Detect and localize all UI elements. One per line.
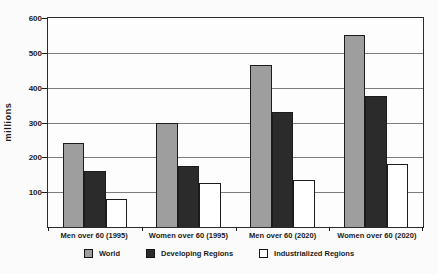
y-tick-label-300: 300	[12, 119, 42, 128]
bar-world-2	[250, 65, 272, 227]
y-tick-label-600: 600	[12, 14, 42, 23]
bar-industrialized-regions-0	[106, 199, 128, 227]
y-tick-label-100: 100	[12, 188, 42, 197]
y-tick-600	[42, 18, 47, 19]
gridline-400	[48, 88, 423, 89]
x-category-label: Men over 60 (1995)	[47, 231, 141, 240]
legend-item-industrialized-regions: Industrialized Regions	[259, 249, 354, 258]
bar-industrialized-regions-3	[387, 164, 409, 227]
bar-developing-regions-3	[365, 96, 387, 227]
legend-label: Industrialized Regions	[274, 249, 354, 258]
legend-label: Developing Regions	[161, 249, 233, 258]
y-tick-100	[42, 192, 47, 193]
x-axis-category-labels: Men over 60 (1995) Women over 60 (1995) …	[47, 231, 424, 240]
bar-industrialized-regions-1	[199, 183, 221, 227]
y-tick-500	[42, 53, 47, 54]
world-swatch-icon	[84, 249, 93, 258]
legend-label: World	[99, 249, 120, 258]
y-tick-200	[42, 157, 47, 158]
bar-world-0	[63, 143, 85, 227]
y-tick-label-500: 500	[12, 49, 42, 58]
legend-item-world: World	[84, 249, 120, 258]
chart-legend: World Developing Regions Industrialized …	[0, 249, 438, 258]
x-category-label: Women over 60 (2020)	[330, 231, 424, 240]
y-axis-labels: 100200300400500600	[12, 18, 42, 227]
bar-developing-regions-1	[178, 166, 200, 227]
gridline-500	[48, 53, 423, 54]
y-tick-400	[42, 88, 47, 89]
y-tick-300	[42, 123, 47, 124]
industrialized-regions-swatch-icon	[259, 249, 268, 258]
legend-item-developing-regions: Developing Regions	[146, 249, 233, 258]
x-category-label: Women over 60 (1995)	[141, 231, 235, 240]
bar-developing-regions-2	[272, 112, 294, 227]
population-over-60-bar-chart: millions 100200300400500600 Men over 60 …	[0, 0, 438, 274]
y-tick-label-200: 200	[12, 153, 42, 162]
bar-world-1	[156, 123, 178, 228]
bar-developing-regions-0	[84, 171, 106, 227]
developing-regions-swatch-icon	[146, 249, 155, 258]
bar-industrialized-regions-2	[293, 180, 315, 227]
y-tick-label-400: 400	[12, 84, 42, 93]
x-category-label: Men over 60 (2020)	[236, 231, 330, 240]
plot-area	[47, 17, 424, 228]
bar-world-3	[344, 35, 366, 227]
